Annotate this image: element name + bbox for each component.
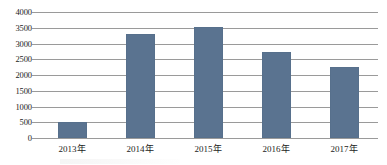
y-axis: 40003500300025002000150010005000 bbox=[0, 12, 32, 138]
x-axis-tick-label: 2013年 bbox=[38, 142, 106, 156]
bar bbox=[330, 67, 359, 138]
y-axis-tick-label: 1500 bbox=[0, 87, 32, 96]
plot-area bbox=[38, 12, 378, 138]
y-axis-tick-label: 3500 bbox=[0, 24, 32, 33]
y-axis-tick-label: 500 bbox=[0, 118, 32, 127]
gridline bbox=[38, 138, 378, 139]
x-axis-tick-label: 2015年 bbox=[174, 142, 242, 156]
y-axis-tick-label: 4000 bbox=[0, 8, 32, 17]
bar bbox=[194, 27, 223, 138]
x-axis-tick-label: 2017年 bbox=[310, 142, 378, 156]
y-axis-tick-label: 2500 bbox=[0, 55, 32, 64]
y-axis-tick-label: 0 bbox=[0, 134, 32, 143]
scan-artifact bbox=[60, 159, 180, 164]
chart-title bbox=[0, 0, 387, 2]
y-axis-tick-label: 1000 bbox=[0, 103, 32, 112]
bar bbox=[262, 52, 291, 138]
bar bbox=[126, 34, 155, 138]
y-axis-tick-label: 2000 bbox=[0, 71, 32, 80]
x-axis-tick-label: 2014年 bbox=[106, 142, 174, 156]
gridline bbox=[38, 12, 378, 13]
bar bbox=[58, 122, 87, 138]
y-axis-tick-label: 3000 bbox=[0, 40, 32, 49]
x-axis: 2013年2014年2015年2016年2017年 bbox=[38, 142, 378, 158]
bar-chart-figure: 40003500300025002000150010005000 2013年20… bbox=[0, 0, 387, 165]
x-axis-tick-label: 2016年 bbox=[242, 142, 310, 156]
